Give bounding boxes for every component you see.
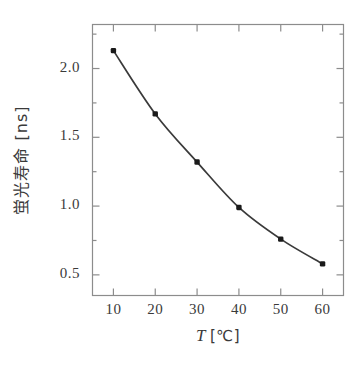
data-point-marker: [236, 205, 241, 210]
y-tick-label: 0.5: [36, 265, 80, 282]
data-markers: [111, 48, 326, 267]
x-tick-label: 50: [264, 301, 298, 318]
data-series: [113, 51, 322, 264]
x-tick-label: 40: [222, 301, 256, 318]
y-axis-title: 蛍光寿命 [ns]: [8, 105, 32, 214]
y-tick-label: 2.0: [36, 59, 80, 76]
x-axis-title-symbol: T: [196, 326, 206, 345]
x-tick-label: 30: [180, 301, 214, 318]
x-axis-title-unit: [℃]: [206, 327, 240, 345]
x-tick-label: 10: [96, 301, 130, 318]
x-tick-label: 20: [138, 301, 172, 318]
y-tick-label: 1.5: [36, 127, 80, 144]
data-point-marker: [278, 236, 283, 241]
data-point-marker: [320, 261, 325, 266]
y-tick-label: 1.0: [36, 196, 80, 213]
data-point-marker: [153, 111, 158, 116]
x-axis-title: T[℃]: [196, 326, 240, 345]
chart-figure: 蛍光寿命 [ns] T[℃] 0.51.01.52.0 102030405060: [0, 0, 362, 373]
y-axis-title-wrap: 蛍光寿命 [ns]: [0, 0, 40, 320]
x-axis-title-wrap: T[℃]: [92, 326, 344, 346]
data-line: [113, 51, 322, 264]
data-point-marker: [194, 159, 199, 164]
x-tick-label: 60: [306, 301, 340, 318]
data-point-marker: [111, 48, 116, 53]
